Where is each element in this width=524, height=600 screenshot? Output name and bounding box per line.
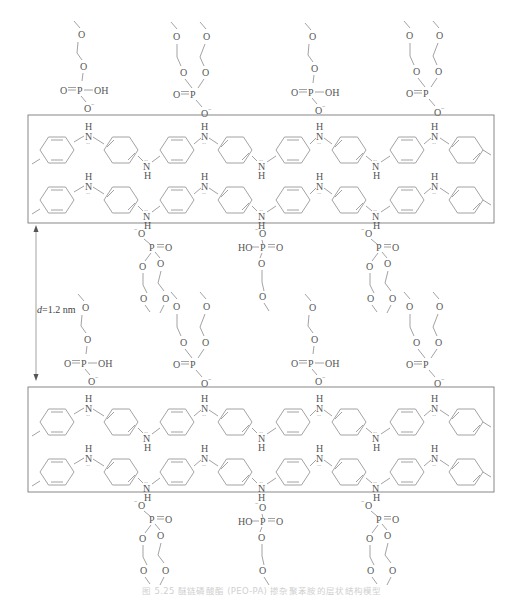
svg-text:··: ·· <box>373 158 377 164</box>
mono-ester-dopant <box>60 21 108 114</box>
svg-text:··: ·· <box>432 141 436 147</box>
svg-text:H: H <box>316 121 323 132</box>
dopants-above-layer-1 <box>60 21 445 119</box>
svg-text:··: ·· <box>86 141 90 147</box>
dopants-below-layer-2 <box>134 498 399 585</box>
di-ester-dopant <box>361 498 399 585</box>
polyaniline-chain <box>32 393 491 453</box>
di-ester-dopant <box>404 292 445 389</box>
svg-text:··: ·· <box>259 158 263 164</box>
figure-caption: 图 5.25 醚链磷酸酯 (PEO-PA) 掺杂聚苯胺的层状结构模型 <box>0 584 524 596</box>
layered-structure-diagram: O O O P OH O − O O O O <box>0 0 524 600</box>
svg-text:··: ·· <box>317 141 321 147</box>
polyaniline-layer-1: NH·· NH·· NH·· NH·· NH·· NH·· NH·· <box>28 115 494 231</box>
svg-text:H: H <box>144 170 151 181</box>
svg-text:H: H <box>85 121 92 132</box>
di-ester-dopant <box>171 292 212 389</box>
arrow-up-icon <box>34 225 39 232</box>
di-ester-dopant <box>134 226 172 313</box>
spacing-value: =1.2 nm <box>42 304 76 315</box>
dopants-below-layer-1 <box>134 226 399 313</box>
svg-text:··: ·· <box>202 141 206 147</box>
svg-text:H: H <box>373 170 380 181</box>
mono-ester-dopant <box>238 226 283 311</box>
svg-text:H: H <box>201 121 208 132</box>
dopants-above-layer-2 <box>64 292 445 389</box>
mono-ester-dopant <box>238 500 283 585</box>
di-ester-dopant <box>171 22 212 119</box>
mono-ester-dopant <box>291 294 339 387</box>
svg-text:H: H <box>431 121 438 132</box>
arrow-down-icon <box>34 374 39 381</box>
polyaniline-layer-2 <box>28 387 494 503</box>
di-ester-dopant <box>404 21 445 118</box>
mono-ester-dopant <box>291 23 339 116</box>
svg-text:H: H <box>258 170 265 181</box>
di-ester-dopant <box>134 498 172 585</box>
svg-text:d=1.2 nm: d=1.2 nm <box>37 304 76 315</box>
di-ester-dopant <box>361 226 399 313</box>
svg-text:··: ·· <box>144 158 148 164</box>
